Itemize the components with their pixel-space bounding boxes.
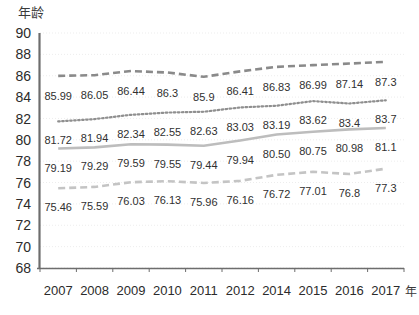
y-axis-tick-label: 72 [5, 217, 31, 233]
x-axis-tick-label: 2008 [80, 283, 109, 298]
data-point-label: 87.3 [375, 76, 396, 88]
data-point-label: 83.19 [263, 119, 291, 131]
data-point-label: 83.03 [226, 121, 254, 133]
data-point-label: 81.72 [44, 134, 72, 146]
x-axis-tick-label: 2010 [153, 283, 182, 298]
data-point-label: 77.01 [299, 185, 327, 197]
data-point-label: 85.9 [193, 91, 214, 103]
x-axis-tick-label: 2009 [117, 283, 146, 298]
data-point-label: 83.4 [339, 117, 360, 129]
data-point-label: 79.59 [117, 157, 145, 169]
data-point-label: 75.96 [190, 196, 218, 208]
plot-area [0, 0, 419, 315]
y-axis-tick-label: 68 [5, 260, 31, 276]
data-point-label: 86.3 [157, 87, 178, 99]
series-line-1 [58, 62, 386, 77]
data-point-label: 80.50 [263, 148, 291, 160]
data-point-label: 79.44 [190, 159, 218, 171]
data-point-label: 79.19 [44, 162, 72, 174]
x-axis-tick-label: 2014 [262, 283, 291, 298]
data-point-label: 76.8 [339, 187, 360, 199]
y-axis-tick-label: 88 [5, 46, 31, 62]
data-point-label: 79.55 [154, 158, 182, 170]
y-axis-tick-label: 80 [5, 132, 31, 148]
data-point-label: 77.3 [375, 182, 396, 194]
x-axis-tick-label: 2015 [299, 283, 328, 298]
data-point-label: 76.72 [263, 188, 291, 200]
y-axis-tick-label: 90 [5, 25, 31, 41]
data-point-label: 83.62 [299, 114, 327, 126]
data-point-label: 75.59 [81, 200, 109, 212]
data-point-label: 76.13 [154, 194, 182, 206]
y-axis-tick-label: 74 [5, 196, 31, 212]
y-axis-tick-label: 70 [5, 239, 31, 255]
x-axis-tick-label: 2007 [44, 283, 73, 298]
y-axis-tick-label: 78 [5, 153, 31, 169]
x-axis-tick-label: 2017 [371, 283, 400, 298]
data-point-label: 86.44 [117, 85, 145, 97]
data-point-label: 85.99 [44, 90, 72, 102]
series-line-2 [58, 100, 386, 121]
data-point-label: 76.16 [226, 194, 254, 206]
data-point-label: 86.83 [263, 81, 291, 93]
data-point-label: 82.55 [154, 126, 182, 138]
data-point-label: 79.29 [81, 160, 109, 172]
data-point-label: 79.94 [226, 154, 254, 166]
data-point-label: 82.63 [190, 125, 218, 137]
data-point-label: 82.34 [117, 128, 145, 140]
life-expectancy-line-chart: 年龄 年 908886848280787674727068 2007200820… [0, 0, 419, 315]
x-axis-tick-label: 2011 [190, 283, 218, 298]
data-point-label: 86.99 [299, 79, 327, 91]
data-point-label: 81.1 [375, 141, 396, 153]
data-point-label: 75.46 [44, 201, 72, 213]
data-point-label: 87.14 [336, 78, 364, 90]
x-axis-tick-label: 2016 [335, 283, 364, 298]
y-axis-tick-label: 86 [5, 68, 31, 84]
data-point-label: 76.03 [117, 195, 145, 207]
data-point-label: 86.41 [226, 85, 254, 97]
data-point-label: 80.98 [336, 142, 364, 154]
y-axis-tick-label: 82 [5, 111, 31, 127]
y-axis-tick-label: 76 [5, 175, 31, 191]
data-point-label: 86.05 [81, 89, 109, 101]
data-point-label: 81.94 [81, 132, 109, 144]
data-point-label: 80.75 [299, 145, 327, 157]
x-axis-tick-label: 2012 [226, 283, 255, 298]
data-point-label: 83.7 [375, 113, 396, 125]
y-axis-tick-label: 84 [5, 89, 31, 105]
